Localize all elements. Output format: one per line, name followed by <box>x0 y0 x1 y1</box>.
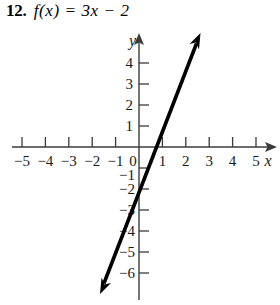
x-tick-label: 5 <box>252 153 260 169</box>
y-tick-label: −6 <box>119 265 135 281</box>
y-axis-label: y <box>127 32 137 50</box>
y-tick-label: 4 <box>126 55 134 71</box>
x-tick-label: 3 <box>205 153 213 169</box>
x-axis-label: x <box>263 152 271 169</box>
x-tick-label: 2 <box>182 153 190 169</box>
y-tick-label: 2 <box>126 97 134 113</box>
x-tick-label: −5 <box>14 153 30 169</box>
graph-canvas: −5 −4 −3 −2 −1 0 1 2 3 4 5 4 3 2 1 −1 −2… <box>0 0 280 305</box>
y-tick-label: −5 <box>119 244 135 260</box>
y-tick-label: 3 <box>126 76 134 92</box>
x-tick-labels: −5 −4 −3 −2 −1 0 1 2 3 4 5 <box>14 153 260 169</box>
y-tick-label: 1 <box>126 118 134 134</box>
coordinate-plane: −5 −4 −3 −2 −1 0 1 2 3 4 5 4 3 2 1 −1 −2… <box>0 0 280 305</box>
y-tick-label: −2 <box>119 181 135 197</box>
x-tick-label: 1 <box>159 153 167 169</box>
x-axis <box>12 142 277 152</box>
x-tick-label: −3 <box>61 153 77 169</box>
y-tick-labels: 4 3 2 1 −1 −2 −3 −4 −5 −6 <box>119 55 135 281</box>
x-tick-label: −2 <box>84 153 100 169</box>
x-tick-label: 4 <box>229 153 237 169</box>
x-tick-label: −4 <box>37 153 53 169</box>
